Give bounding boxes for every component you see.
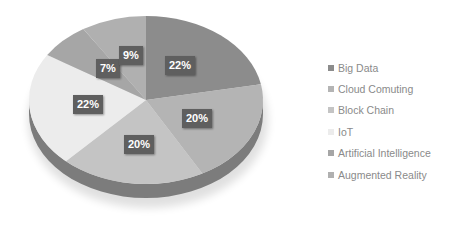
legend-swatch-icon [328, 65, 334, 71]
pie-chart: 22% 20% 20% 22% 7% 9% [0, 0, 300, 225]
legend-label: Cloud Comuting [338, 83, 413, 95]
label-ai: 7% [96, 59, 120, 78]
legend-swatch-icon [328, 172, 334, 178]
legend-label: IoT [338, 126, 353, 138]
label-block-chain: 20% [124, 135, 154, 154]
label-big-data: 22% [165, 56, 195, 75]
legend: Big DataCloud ComutingBlock ChainIoTArti… [328, 57, 431, 185]
legend-item: Artificial Intelligence [328, 143, 431, 164]
pie-slices [29, 16, 263, 184]
legend-label: Block Chain [338, 104, 394, 116]
label-cloud: 20% [182, 109, 212, 128]
legend-swatch-icon [328, 86, 334, 92]
legend-label: Artificial Intelligence [338, 147, 431, 159]
legend-label: Big Data [338, 62, 378, 74]
label-ar: 9% [119, 46, 143, 65]
legend-label: Augmented Reality [338, 169, 427, 181]
legend-swatch-icon [328, 129, 334, 135]
legend-item: Augmented Reality [328, 164, 431, 185]
pie-svg [0, 0, 300, 225]
legend-item: Cloud Comuting [328, 78, 431, 99]
legend-swatch-icon [328, 150, 334, 156]
legend-item: Block Chain [328, 100, 431, 121]
label-iot: 22% [73, 95, 103, 114]
legend-item: IoT [328, 121, 431, 142]
legend-swatch-icon [328, 107, 334, 113]
legend-item: Big Data [328, 57, 431, 78]
